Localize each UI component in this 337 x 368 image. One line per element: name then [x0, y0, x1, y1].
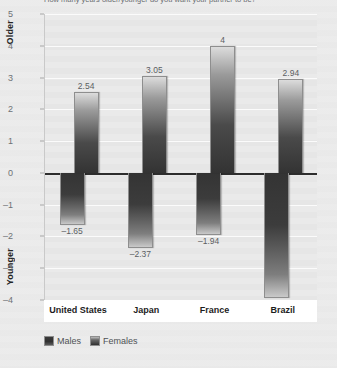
bar-males-united-states: [60, 173, 85, 225]
bar-value-label: 2.94: [271, 68, 311, 78]
chart-legend: MalesFemales: [44, 336, 138, 346]
y-axis-tick-label: 1: [0, 136, 13, 146]
chart-title: How many years older/younger do you want…: [44, 0, 316, 4]
bar-value-label: –1.94: [189, 236, 229, 246]
y-axis-tick-label: –3: [0, 263, 13, 273]
bar-value-label: 4: [203, 35, 243, 45]
bar-males-japan: [128, 173, 153, 248]
legend-swatch-females: [90, 336, 100, 346]
gridline: [45, 46, 317, 47]
bar-males-brazil: [264, 173, 289, 298]
y-axis-tick-label: 0: [0, 168, 13, 178]
y-axis-tick-mark: [40, 77, 44, 78]
y-axis-tick-mark: [40, 141, 44, 142]
y-axis-tick-label: –1: [0, 200, 13, 210]
y-axis-tick-mark: [40, 172, 44, 173]
y-axis-tick-label: 3: [0, 73, 13, 83]
category-label-united-states: United States: [43, 305, 113, 315]
bar-value-label: –1.65: [52, 226, 92, 236]
y-axis-tick-label: 2: [0, 104, 13, 114]
gridline: [45, 14, 317, 15]
bar-chart-figure: How many years older/younger do you want…: [0, 0, 337, 368]
legend-swatch-males: [44, 336, 54, 346]
legend-item-males[interactable]: Males: [44, 336, 81, 346]
y-axis-tick-mark: [40, 45, 44, 46]
category-axis: United StatesJapanFranceBrazil: [44, 300, 317, 322]
bar-females-brazil: [278, 79, 303, 172]
legend-label: Males: [57, 336, 81, 346]
category-label-brazil: Brazil: [248, 305, 318, 315]
category-label-japan: Japan: [111, 305, 181, 315]
y-axis-tick-label: 5: [0, 9, 13, 19]
category-label-france: France: [180, 305, 250, 315]
bar-females-united-states: [74, 92, 99, 173]
y-axis-tick-mark: [40, 14, 44, 15]
bar-value-label: –2.37: [120, 249, 160, 259]
legend-item-females[interactable]: Females: [90, 336, 138, 346]
legend-label: Females: [103, 336, 138, 346]
y-axis-tick-mark: [40, 204, 44, 205]
y-axis-tick-mark: [40, 268, 44, 269]
y-axis-tick-label: –4: [0, 295, 13, 305]
bar-males-france: [196, 173, 221, 235]
y-axis-tick-label: –2: [0, 231, 13, 241]
bar-females-japan: [142, 76, 167, 173]
y-axis-tick-label: 4: [0, 41, 13, 51]
y-axis-tick-mark: [40, 236, 44, 237]
y-axis-tick-mark: [40, 109, 44, 110]
plot-area: –1.652.54–2.373.05–1.944–3.942.94: [44, 14, 317, 300]
bar-females-france: [210, 46, 235, 173]
bar-value-label: 2.54: [66, 81, 106, 91]
bar-value-label: 3.05: [134, 65, 174, 75]
